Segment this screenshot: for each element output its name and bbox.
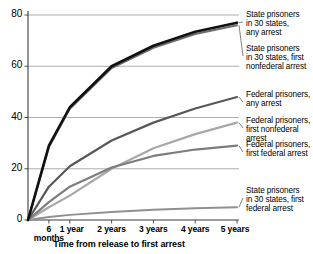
- x-tick-label-4-years: 4 years: [177, 225, 213, 235]
- axis-ticks: [25, 15, 238, 224]
- y-tick-label-0: 0: [2, 214, 22, 224]
- y-tick-label-40: 40: [2, 112, 22, 122]
- legend-label-state-first-nonfederal: State prisoners in 30 states, first nonf…: [246, 44, 312, 72]
- gridlines: [28, 15, 239, 169]
- legend-label-state-first-federal: State prisoners in 30 states, first fede…: [246, 186, 312, 214]
- x-tick-label-3-years: 3 years: [135, 225, 171, 235]
- axis-lines: [28, 11, 239, 220]
- recidivism-line-chart: 80 60 40 20 0 6 months 1 year 2 years 3 …: [0, 0, 313, 254]
- x-tick-label-1-year: 1 year: [55, 225, 89, 235]
- legend-label-state-any-arrest: State prisoners in 30 states, any arrest: [246, 10, 312, 38]
- data-series-group: [28, 23, 237, 220]
- legend-label-federal-any-arrest: Federal prisoners, any arrest: [246, 90, 312, 108]
- x-tick-label-5-years: 5 years: [217, 225, 253, 235]
- y-tick-label-60: 60: [2, 60, 22, 70]
- legend-leader-lines: [239, 22, 243, 207]
- y-tick-label-80: 80: [2, 9, 22, 19]
- legend-label-federal-first-federal: Federal prisoners, first federal arrest: [246, 140, 312, 158]
- x-tick-label-2-years: 2 years: [94, 225, 130, 235]
- x-axis-title: Time from release to first arrest: [0, 239, 238, 249]
- y-tick-label-20: 20: [2, 163, 22, 173]
